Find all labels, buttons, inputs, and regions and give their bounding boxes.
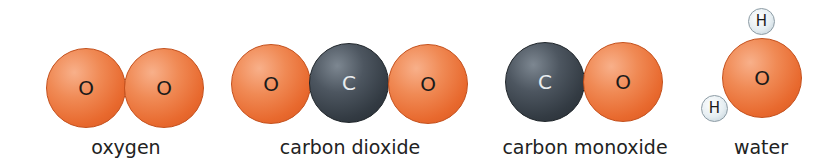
carbon-atom: C (505, 42, 585, 122)
oxygen-atom: O (124, 48, 204, 128)
molecule-label: carbon dioxide (280, 136, 420, 158)
hydrogen-atom: H (748, 8, 775, 35)
molecule-label: water (734, 136, 788, 158)
atom-symbol: O (615, 72, 631, 92)
oxygen-atom: O (231, 44, 311, 124)
oxygen-atom: O (388, 44, 468, 124)
atom-symbol: O (420, 74, 436, 94)
atom-symbol: C (342, 73, 356, 93)
atom-symbol: H (709, 101, 720, 116)
oxygen-atom: O (583, 42, 663, 122)
atom-symbol: O (156, 78, 172, 98)
oxygen-atom: O (722, 38, 802, 118)
molecule-label: oxygen (91, 136, 160, 158)
atom-symbol: H (756, 14, 767, 29)
molecule-label: carbon monoxide (502, 136, 667, 158)
carbon-atom: C (309, 43, 389, 123)
atom-symbol: O (754, 68, 770, 88)
oxygen-atom: O (46, 48, 126, 128)
atom-symbol: C (538, 72, 552, 92)
hydrogen-atom: H (701, 95, 728, 122)
atom-symbol: O (263, 74, 279, 94)
atom-symbol: O (78, 78, 94, 98)
